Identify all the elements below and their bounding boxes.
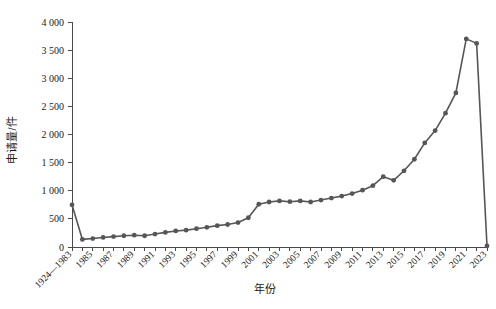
y-tick-label: 2 000 bbox=[42, 129, 65, 140]
data-series bbox=[70, 36, 490, 248]
y-tick-label: 500 bbox=[49, 213, 64, 224]
y-tick-label: 1 500 bbox=[42, 157, 65, 168]
data-point bbox=[360, 188, 365, 193]
data-point bbox=[173, 229, 178, 234]
chart-container: 05001 0001 5002 0002 5003 0003 5004 000 … bbox=[0, 0, 496, 309]
x-tick-label: 1997 bbox=[198, 249, 219, 270]
data-point bbox=[319, 198, 324, 203]
x-tick-label: 2003 bbox=[260, 249, 281, 270]
x-tick-label: 2021 bbox=[447, 249, 468, 270]
data-point bbox=[412, 157, 417, 162]
x-tick-label: 2001 bbox=[240, 249, 261, 270]
data-point bbox=[298, 198, 303, 203]
data-point bbox=[101, 235, 106, 240]
data-point bbox=[308, 200, 313, 205]
data-point bbox=[277, 198, 282, 203]
y-tick-label: 4 000 bbox=[42, 17, 65, 28]
data-point bbox=[381, 174, 386, 179]
data-point bbox=[256, 202, 261, 207]
data-point bbox=[236, 220, 241, 225]
data-point bbox=[246, 215, 251, 220]
data-point bbox=[485, 243, 490, 248]
data-point bbox=[163, 230, 168, 235]
line-chart-svg: 05001 0001 5002 0002 5003 0003 5004 000 … bbox=[0, 0, 496, 309]
y-tick-label: 2 500 bbox=[42, 101, 65, 112]
x-tick-label: 1985 bbox=[74, 249, 95, 270]
data-point bbox=[453, 90, 458, 95]
data-point bbox=[350, 191, 355, 196]
x-tick-label: 1999 bbox=[219, 249, 240, 270]
x-tick-label: 2017 bbox=[406, 249, 427, 270]
x-tick-label: 2023 bbox=[468, 249, 489, 270]
data-point bbox=[90, 236, 95, 241]
data-point bbox=[153, 232, 158, 237]
x-tick-label: 1989 bbox=[115, 249, 136, 270]
data-point bbox=[225, 222, 230, 227]
x-tick-label: 1987 bbox=[94, 249, 115, 270]
data-point bbox=[370, 183, 375, 188]
data-point bbox=[142, 233, 147, 238]
x-tick-label: 2005 bbox=[281, 249, 302, 270]
y-tick-label: 1 000 bbox=[42, 185, 65, 196]
x-tick-label: 2013 bbox=[364, 249, 385, 270]
data-point bbox=[287, 199, 292, 204]
x-axis-title: 年份 bbox=[254, 282, 276, 295]
data-point bbox=[132, 233, 137, 238]
x-tick-label: 1924—1983 bbox=[33, 249, 74, 290]
data-point bbox=[329, 196, 334, 201]
data-point bbox=[474, 41, 479, 46]
data-point bbox=[121, 233, 126, 238]
x-tick-label: 2015 bbox=[385, 249, 406, 270]
y-tick-label: 3 000 bbox=[42, 73, 65, 84]
data-point bbox=[267, 200, 272, 205]
data-point bbox=[204, 225, 209, 230]
y-axis-title: 申请量/件 bbox=[6, 116, 18, 163]
y-tick-label: 0 bbox=[59, 242, 64, 253]
data-point bbox=[215, 223, 220, 228]
data-point bbox=[70, 202, 75, 207]
data-point bbox=[433, 128, 438, 133]
data-point bbox=[422, 141, 427, 146]
x-tick-label: 2009 bbox=[323, 249, 344, 270]
data-point bbox=[464, 36, 469, 41]
x-tick-label: 1991 bbox=[136, 249, 157, 270]
x-tick-label: 2011 bbox=[344, 249, 364, 269]
data-point bbox=[80, 237, 85, 242]
y-tick-label: 3 500 bbox=[42, 45, 65, 56]
x-tick-label: 1995 bbox=[177, 249, 198, 270]
data-point bbox=[184, 228, 189, 233]
data-point bbox=[391, 178, 396, 183]
x-tick-label: 1993 bbox=[157, 249, 178, 270]
data-point bbox=[443, 111, 448, 116]
data-point bbox=[111, 234, 116, 239]
data-point bbox=[194, 226, 199, 231]
x-tick-label: 2019 bbox=[426, 249, 447, 270]
data-point bbox=[339, 194, 344, 199]
data-point bbox=[402, 168, 407, 173]
x-tick-label: 2007 bbox=[302, 249, 323, 270]
y-axis: 05001 0001 5002 0002 5003 0003 5004 000 bbox=[42, 17, 73, 253]
